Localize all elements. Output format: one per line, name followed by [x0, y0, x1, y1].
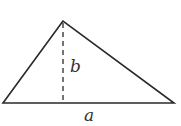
base-label: a	[84, 105, 94, 125]
triangle-figure: b a	[0, 0, 181, 126]
triangle-outline	[3, 21, 174, 103]
height-label: b	[70, 56, 81, 76]
triangle-diagram: b a	[0, 0, 181, 126]
